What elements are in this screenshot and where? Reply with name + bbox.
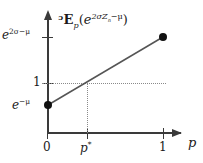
data-point-p-one [159,33,167,41]
y-top-exponent: 2σ−μ [9,27,30,36]
x-axis-label-pstar: p* [80,141,91,154]
y-axis-label-top: e2σ−μ [2,28,30,41]
plot-title: ᵓEp(e2σZn−μ) [58,13,128,30]
title-exponent-minus-mu: −μ [111,12,123,21]
expected-value-plot: ᵓEp(e2σZn−μ) e2σ−μ 1 e−μ 0 p* 1 p [0,0,203,163]
y-axis-label-one: 1 [33,76,41,88]
title-exponent: 2σZn−μ [91,12,122,21]
y-axis-label-low: e−μ [12,98,30,111]
title-paren-close: ) [123,12,128,27]
pstar-asterisk: * [88,140,92,149]
pstar-base: p [80,141,88,155]
data-point-p-zero [44,101,52,109]
x-axis-label-zero: 0 [43,141,51,153]
title-exponent-coefficient: 2σ [91,12,102,21]
x-axis-title: p [188,136,196,149]
y-low-exponent: −μ [19,97,30,106]
expectation-operator-symbol: ᵓE [58,12,73,27]
x-axis-label-one: 1 [159,141,167,153]
